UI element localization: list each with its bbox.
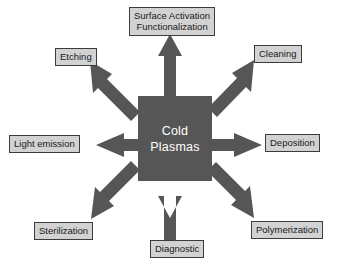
diagram-canvas: Cold Plasmas Surface Activation Function… [0, 0, 348, 273]
node-polymerization: Polymerization [251, 221, 323, 239]
node-light-emission: Light emission [9, 135, 80, 153]
arrow-up-right [208, 60, 254, 117]
node-cleaning-label: Cleaning [259, 48, 297, 59]
node-diagnostic-label: Diagnostic [155, 243, 199, 254]
node-light-emission-label: Light emission [14, 138, 75, 149]
node-sterilization: Sterilization [34, 222, 93, 240]
node-sterilization-label: Sterilization [39, 225, 88, 236]
arrow-up-left [90, 61, 140, 121]
node-deposition: Deposition [265, 134, 320, 152]
node-surface-activation: Surface Activation Functionalization [129, 7, 215, 36]
center-node-cold-plasmas: Cold Plasmas [138, 96, 212, 181]
node-cleaning: Cleaning [254, 45, 302, 63]
node-polymerization-label: Polymerization [256, 224, 318, 235]
node-etching-label: Etching [60, 51, 92, 62]
node-diagnostic: Diagnostic [150, 240, 204, 258]
center-node-line1: Cold [162, 123, 189, 139]
node-deposition-label: Deposition [270, 137, 315, 148]
node-etching: Etching [55, 48, 97, 66]
node-surface-activation-line1: Surface Activation [134, 10, 210, 21]
center-node-line2: Plasmas [150, 139, 199, 155]
arrow-down [158, 196, 182, 240]
arrow-down-right [207, 162, 254, 218]
node-surface-activation-line2: Functionalization [134, 21, 210, 32]
arrow-up [158, 34, 182, 100]
arrow-down-left [91, 161, 140, 219]
